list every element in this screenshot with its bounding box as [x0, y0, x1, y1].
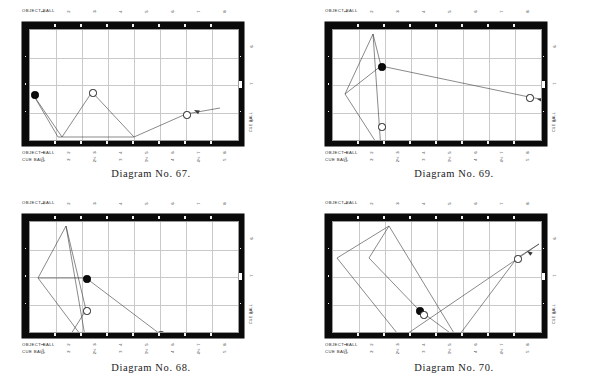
- shot-path: [92, 92, 220, 137]
- rail-diamond: [184, 333, 186, 335]
- rebound-path: [34, 92, 92, 137]
- rail-diamond: [543, 111, 545, 113]
- rail-diamond: [513, 216, 515, 218]
- object-ball-tick: 2: [66, 200, 71, 208]
- rail-diamond: [513, 24, 515, 26]
- object-ball-tick: 1: [343, 8, 348, 16]
- object-ball-tick: 4: [421, 8, 426, 16]
- diagram-plate: OBJECT BALL 12345678 OBJECT BALL CUE BAL…: [0, 0, 605, 383]
- object-ball-tick: 4: [421, 200, 426, 208]
- rail-diamond: [409, 141, 411, 143]
- object-ball-label-bottom: OBJECT BALL: [22, 150, 55, 155]
- rail-diamond: [513, 333, 515, 335]
- cue-ball-tick: 3½: [144, 155, 149, 165]
- cue-ball-tick: 3: [421, 347, 426, 357]
- rail-diamond: [54, 24, 56, 26]
- diagram-caption: Diagram No. 67.: [0, 168, 302, 179]
- rail-diamond: [383, 24, 385, 26]
- panel-diagram-67: OBJECT BALL 12345678 OBJECT BALL CUE BAL…: [0, 0, 302, 191]
- rail-diamond: [240, 56, 242, 58]
- rail-diamond: [461, 216, 463, 218]
- rail-diamond: [25, 303, 27, 305]
- rail-diamond: [357, 24, 359, 26]
- object-ball-tick: 7: [196, 8, 201, 16]
- rail-diamond: [240, 248, 242, 250]
- cue-ball-side-tick: 6: [552, 235, 557, 242]
- rail-diamond: [106, 24, 108, 26]
- rail-diamond: [487, 216, 489, 218]
- rail-diamond: [184, 24, 186, 26]
- cue-ball-tick: 3: [118, 155, 123, 165]
- cue-ball-secondary: [89, 89, 96, 96]
- scale-bottom: OBJECT BALL CUE BALL 123456781½22½33½44½…: [22, 148, 244, 168]
- object-ball-tick: 6: [170, 200, 175, 208]
- cue-ball-side-tick: 8: [552, 309, 557, 316]
- rail-diamond: [383, 333, 385, 335]
- rail-diamond: [184, 216, 186, 218]
- billiard-table: [325, 22, 547, 146]
- rail-diamond: [158, 333, 160, 335]
- direction-arrow-icon: [194, 110, 200, 114]
- cue-ball-tick: 4: [170, 155, 175, 165]
- object-ball-label-bottom: OBJECT BALL: [325, 342, 358, 347]
- cue-ball-side-tick: 6: [249, 43, 254, 50]
- cue-ball-tick: 5: [222, 347, 227, 357]
- rail-diamond: [158, 216, 160, 218]
- cue-ball-tick: 3½: [447, 155, 452, 165]
- rail-diamond: [132, 333, 134, 335]
- cue-ball-side-tick: 8: [249, 309, 254, 316]
- rail-diamond: [210, 24, 212, 26]
- object-ball-label-top: OBJECT BALL: [325, 8, 358, 13]
- rail-diamond: [106, 333, 108, 335]
- rebound-path: [345, 66, 381, 141]
- rail-diamond: [328, 275, 330, 277]
- cue-ball-side-scale: CUE BALL 678: [246, 22, 272, 146]
- rebound-path: [38, 226, 86, 278]
- cue-ball: [514, 255, 521, 262]
- cue-ball-side-tick: 8: [249, 117, 254, 124]
- object-ball-tick: 3: [92, 8, 97, 16]
- cue-ball-tick: 2½: [92, 347, 97, 357]
- billiard-table: [325, 214, 547, 338]
- rail-diamond: [25, 248, 27, 250]
- panel-diagram-68: OBJECT BALL 12345678 OBJECT BALL CUE BAL…: [0, 192, 302, 383]
- carom-path: [34, 96, 134, 137]
- cue-ball-side-tick: 6: [249, 235, 254, 242]
- object-ball: [31, 91, 38, 98]
- cue-ball-tick: 3: [118, 347, 123, 357]
- rail-diamond: [487, 24, 489, 26]
- object-ball-scale-top: OBJECT BALL 12345678: [325, 8, 547, 20]
- diagram-caption: Diagram No. 69.: [303, 168, 605, 179]
- object-ball-tick: 5: [447, 8, 452, 16]
- rebound-path: [369, 226, 457, 333]
- table-felt: [29, 221, 239, 333]
- cue-ball-secondary: [420, 311, 427, 318]
- table-felt: [29, 29, 239, 141]
- direction-arrow-icon: [527, 251, 533, 256]
- rail-diamond: [158, 24, 160, 26]
- rail-diamond: [543, 248, 545, 250]
- shot-path: [381, 66, 542, 102]
- cue-ball-tick: 1½: [343, 347, 348, 357]
- cue-ball-tick: 4: [170, 347, 175, 357]
- cue-ball-tick: 1½: [343, 155, 348, 165]
- panel-diagram-69: OBJECT BALL 12345678 OBJECT BALL CUE BAL…: [303, 0, 605, 191]
- cue-ball-tick: 1½: [40, 347, 45, 357]
- rail-diamond: [513, 141, 515, 143]
- object-ball-label-top: OBJECT BALL: [325, 200, 358, 205]
- rail-diamond: [54, 216, 56, 218]
- diagram-caption: Diagram No. 68.: [0, 362, 302, 373]
- object-ball-tick: 5: [144, 200, 149, 208]
- cue-ball-tick: 4½: [499, 155, 504, 165]
- object-ball-tick: 1: [40, 200, 45, 208]
- rail-diamond: [543, 303, 545, 305]
- cue-ball-side-scale: CUE BALL 678: [549, 214, 575, 338]
- rail-diamond: [435, 24, 437, 26]
- object-ball-tick: 1: [40, 8, 45, 16]
- object-ball-tick: 7: [499, 8, 504, 16]
- object-ball: [83, 275, 90, 282]
- cue-ball-tick: 3½: [144, 347, 149, 357]
- rail-diamond: [184, 141, 186, 143]
- cue-ball-side-tick: 8: [552, 117, 557, 124]
- carom-path: [337, 226, 539, 333]
